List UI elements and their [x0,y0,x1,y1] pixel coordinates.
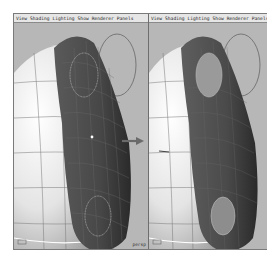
menu-shading[interactable]: Shading [165,16,184,21]
viewport-3d-right[interactable] [149,23,267,249]
menu-lighting[interactable]: Lighting [52,16,74,21]
menu-view[interactable]: View [151,16,162,21]
menu-lighting[interactable]: Lighting [187,16,209,21]
scene-render-right [149,23,267,249]
menu-renderer[interactable]: Renderer [92,16,114,21]
menu-show[interactable]: Show [78,16,89,21]
viewport-panel-right: ViewShadingLightingShowRendererPanels [149,14,267,249]
camera-label: persp [132,242,146,247]
menu-show[interactable]: Show [213,16,224,21]
panel-menubar-left: ViewShadingLightingShowRendererPanels [14,14,148,23]
right-arrow-icon [120,136,146,146]
menu-panels[interactable]: Panels [117,16,134,21]
panel-menubar-right: ViewShadingLightingShowRendererPanels [149,14,267,23]
menu-shading[interactable]: Shading [30,16,49,21]
viewport-panel-left: ViewShadingLightingShowRendererPanels [14,14,149,249]
comparison-frame: ViewShadingLightingShowRendererPanels [13,13,267,250]
menu-view[interactable]: View [16,16,27,21]
menu-panels[interactable]: Panels [252,16,267,21]
menu-renderer[interactable]: Renderer [227,16,249,21]
